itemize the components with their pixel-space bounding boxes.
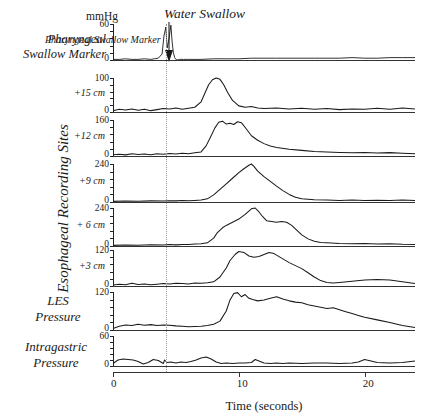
y-tick — [110, 24, 114, 25]
row-label-intragastric: Intragastric Pressure — [6, 339, 106, 371]
trace-panel-plus9: 2400 — [113, 164, 415, 202]
baseline-plus6 — [113, 246, 415, 247]
row-label-pharyngeal-line2: Swallow Marker — [10, 47, 106, 62]
y-label-max-plus6: 240 — [95, 204, 109, 213]
y-tick — [110, 85, 114, 86]
x-tick-label: 10 — [237, 377, 248, 389]
y-tick — [110, 360, 114, 361]
y-axis-les — [113, 292, 114, 330]
x-tick-label: 0 — [111, 377, 117, 389]
y-tick — [110, 78, 114, 79]
baseline-plus9 — [113, 202, 415, 203]
water-swallow-annotation: Water Swallow — [164, 6, 245, 22]
trace-plus6 — [113, 208, 415, 246]
y-label-max-plus12: 160 — [95, 116, 109, 125]
row-label-intragastric-line1: Intragastric — [6, 339, 106, 355]
y-tick — [110, 187, 114, 188]
trace-plus3 — [113, 250, 415, 286]
y-tick — [110, 53, 114, 54]
y-label-max-plus3: 120 — [95, 246, 109, 255]
y-tick — [110, 134, 114, 135]
y-tick — [110, 307, 114, 308]
row-label-plus9: +9 cm — [45, 175, 105, 186]
y-axis-plus6 — [113, 208, 114, 246]
y-tick — [110, 46, 114, 47]
y-tick — [110, 127, 114, 128]
trace-panel-plus6: 2400 — [113, 208, 415, 246]
y-tick — [110, 149, 114, 150]
manometry-figure: mmHg Water Swallow Pharyngeal Swallow Ma… — [0, 0, 422, 420]
row-label-plus12: +12 cm — [45, 130, 105, 141]
y-tick — [110, 336, 114, 337]
y-tick — [110, 250, 114, 251]
y-tick — [110, 172, 114, 173]
y-label-min-plus15: 0 — [104, 106, 109, 115]
y-tick — [110, 164, 114, 165]
y-axis-plus9 — [113, 164, 114, 202]
y-label-min-plus12: 0 — [104, 150, 109, 159]
swallow-guide-line — [166, 24, 167, 372]
y-tick — [110, 348, 114, 349]
trace-panel-plus12: 1600 — [113, 120, 415, 156]
plot-area: 600100016002400240012001200600 — [113, 24, 415, 372]
y-tick — [110, 179, 114, 180]
y-label-min-pharyngeal: 0 — [104, 54, 109, 63]
baseline-les — [113, 330, 415, 331]
baseline-plus15 — [113, 112, 415, 113]
trace-panel-intragastric: 600 — [113, 336, 415, 366]
row-label-plus15: +15 cm — [45, 87, 105, 98]
y-tick — [110, 231, 114, 232]
y-tick — [110, 92, 114, 93]
y-axis-plus15 — [113, 78, 114, 112]
row-label-intragastric-line2: Pressure — [6, 355, 106, 371]
y-tick — [110, 238, 114, 239]
trace-plus12 — [113, 120, 415, 156]
y-label-max-intragastric: 60 — [100, 332, 110, 341]
row-label-pharyngeal: Pharyngeal Swallow Marker — [45, 34, 105, 45]
trace-panel-plus3: 1200 — [113, 250, 415, 286]
trace-plus9 — [113, 164, 415, 202]
y-tick — [110, 292, 114, 293]
y-tick — [110, 31, 114, 32]
baseline-pharyngeal — [113, 60, 415, 61]
row-label-plus3: +3 cm — [45, 260, 105, 271]
y-tick — [110, 354, 114, 355]
y-tick — [110, 223, 114, 224]
y-label-max-plus9: 240 — [95, 160, 109, 169]
y-tick — [110, 216, 114, 217]
y-tick — [110, 300, 114, 301]
y-axis-plus3 — [113, 250, 114, 286]
trace-intragastric — [113, 336, 415, 366]
y-tick — [110, 98, 114, 99]
y-label-min-intragastric: 0 — [104, 360, 109, 369]
trace-les — [113, 292, 415, 330]
y-tick — [110, 208, 114, 209]
y-tick — [110, 272, 114, 273]
trace-panel-plus15: 1000 — [113, 78, 415, 112]
y-tick — [110, 322, 114, 323]
x-tick-label: 20 — [363, 377, 374, 389]
y-tick — [110, 257, 114, 258]
y-label-max-plus15: 100 — [95, 74, 109, 83]
y-tick — [110, 194, 114, 195]
row-label-plus6: + 6 cm — [45, 219, 105, 230]
trace-plus15 — [113, 78, 415, 112]
baseline-intragastric — [113, 366, 415, 367]
y-tick — [110, 120, 114, 121]
y-tick — [110, 315, 114, 316]
y-tick — [110, 342, 114, 343]
y-label-max-les: 120 — [95, 288, 109, 297]
baseline-plus3 — [113, 286, 415, 287]
y-tick — [110, 279, 114, 280]
y-tick — [110, 264, 114, 265]
y-tick — [110, 142, 114, 143]
x-axis-line — [113, 372, 415, 373]
x-axis-title: Time (seconds) — [113, 399, 415, 414]
y-tick — [110, 105, 114, 106]
y-axis-plus12 — [113, 120, 114, 156]
trace-panel-les: 1200 — [113, 292, 415, 330]
y-label-max-pharyngeal: 60 — [100, 20, 110, 29]
baseline-plus12 — [113, 156, 415, 157]
y-axis-intragastric — [113, 336, 114, 366]
